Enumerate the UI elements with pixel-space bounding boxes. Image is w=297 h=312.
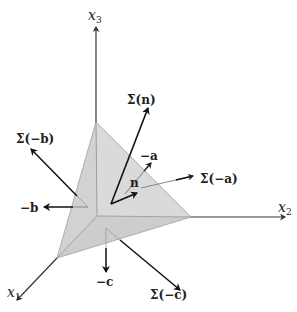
x1-axis <box>17 258 57 300</box>
sigma-neg-c-label: Σ(−c) <box>150 288 187 302</box>
sigma-neg-a-arrow-tip <box>176 176 193 180</box>
x3-label: x3 <box>88 7 102 25</box>
neg-a-label: −a <box>140 149 158 163</box>
sigma-neg-a-label: Σ(−a) <box>200 172 238 186</box>
n-label: n <box>130 176 139 190</box>
x1-label: x1 <box>7 284 21 302</box>
sigma-n-label: Σ(n) <box>127 93 156 107</box>
sigma-neg-c-arrow <box>120 240 180 290</box>
neg-c-label: −c <box>96 275 113 289</box>
tetrahedron <box>57 122 191 258</box>
neg-b-label: −b <box>20 201 38 215</box>
neg-a-arrow-tip <box>144 163 151 171</box>
x2-label: x2 <box>278 199 292 217</box>
sigma-neg-b-label: Σ(−b) <box>16 132 54 146</box>
tetrahedron-diagram: x3 x2 x1 Σ(n) n −a Σ(−a) Σ(−b) −b −c Σ(−… <box>0 0 297 312</box>
sigma-neg-b-arrow <box>31 149 77 196</box>
